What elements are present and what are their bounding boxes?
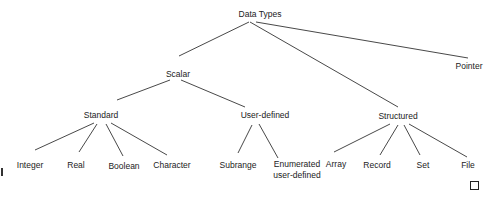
node-character: Character — [153, 160, 190, 171]
edge-root-structured — [250, 22, 398, 107]
node-set: Set — [417, 160, 430, 171]
margin-mark — [1, 168, 3, 176]
edge-structured-record — [380, 125, 398, 155]
node-enumerated-line2: user-defined — [273, 170, 320, 181]
node-real: Real — [67, 160, 84, 171]
edge-scalar-userdefined — [181, 80, 245, 107]
node-standard: Standard — [84, 110, 119, 121]
node-file: File — [461, 160, 475, 171]
edge-standard-character — [111, 123, 167, 155]
edge-structured-file — [409, 124, 467, 157]
node-record: Record — [363, 160, 390, 171]
edge-scalar-standard — [117, 80, 170, 100]
node-subrange: Subrange — [220, 160, 257, 171]
node-user-defined: User-defined — [241, 110, 290, 121]
edge-root-scalar — [179, 22, 249, 56]
node-integer: Integer — [17, 160, 43, 171]
edge-structured-set — [404, 125, 420, 155]
edge-userdefined-subrange — [238, 125, 252, 153]
end-of-figure-square-icon — [470, 181, 479, 190]
node-enumerated-user-defined: Enumerated user-defined — [273, 159, 320, 181]
edge-userdefined-enumerated — [259, 124, 278, 158]
edge-root-pointer — [256, 22, 468, 58]
node-enumerated-line1: Enumerated — [273, 159, 320, 170]
node-boolean: Boolean — [108, 161, 139, 172]
edge-standard-integer — [35, 123, 94, 150]
node-pointer: Pointer — [456, 61, 483, 72]
node-data-types: Data Types — [239, 9, 282, 20]
edge-structured-array — [334, 124, 390, 152]
node-array: Array — [326, 159, 346, 170]
node-structured: Structured — [378, 111, 417, 122]
node-scalar: Scalar — [166, 69, 190, 80]
